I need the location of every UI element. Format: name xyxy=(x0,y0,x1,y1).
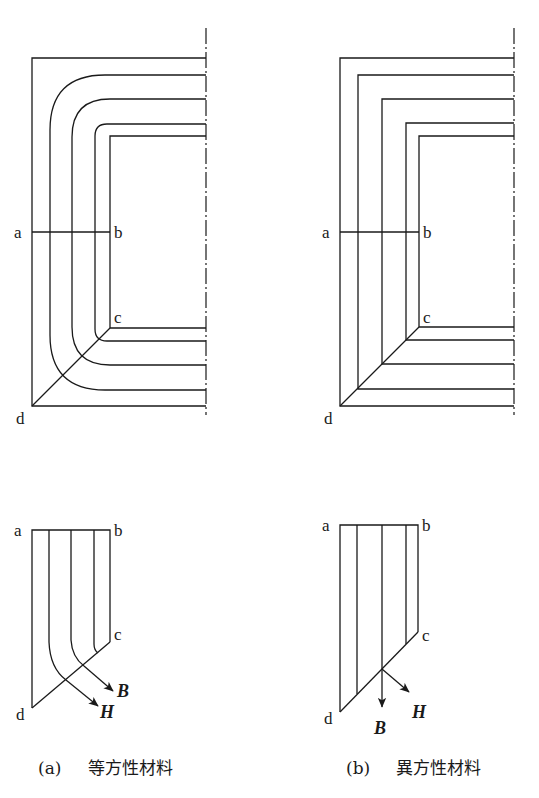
caption-b-text: 異方性材料 xyxy=(396,758,481,778)
vector-label-h: H xyxy=(99,702,115,722)
caption-b: (b) 異方性材料 xyxy=(346,758,481,778)
caption-a-label: (a) xyxy=(38,758,61,778)
point-label-a: a xyxy=(14,223,22,242)
diagonal-dc xyxy=(340,327,419,406)
flux-line-2 xyxy=(71,530,84,666)
panel-b-core-corner: a b c d xyxy=(322,28,514,428)
point-label-b: b xyxy=(422,516,431,535)
h-vector-arrow xyxy=(382,669,409,692)
caption-a-text: 等方性材料 xyxy=(88,758,173,778)
caption-a: (a) 等方性材料 xyxy=(38,758,173,778)
point-label-c: c xyxy=(114,308,122,327)
point-label-b: b xyxy=(423,223,432,242)
caption-b-label: (b) xyxy=(346,758,370,778)
diagonal-dc xyxy=(32,642,110,708)
point-label-c: c xyxy=(114,625,122,644)
panel-a-section-detail: a b c d B H xyxy=(14,521,129,724)
vector-label-b: B xyxy=(373,718,386,738)
panel-a-core-corner: a b c d xyxy=(14,28,206,428)
diagonal-dc xyxy=(32,328,110,406)
point-label-b: b xyxy=(114,223,123,242)
h-vector-arrow xyxy=(66,680,98,706)
panel-b-section-detail: a b c d H B xyxy=(322,516,431,738)
flux-line-1 xyxy=(49,530,66,680)
vector-label-b: B xyxy=(116,681,129,701)
point-label-c: c xyxy=(423,308,431,327)
vector-label-h: H xyxy=(411,702,427,722)
point-label-d: d xyxy=(324,709,333,728)
point-label-d: d xyxy=(324,409,333,428)
inner-window xyxy=(110,136,206,328)
point-label-c: c xyxy=(422,626,430,645)
point-label-a: a xyxy=(14,521,22,540)
flux-line-3 xyxy=(95,124,206,341)
inner-window xyxy=(419,136,514,327)
b-vector-arrow xyxy=(84,666,113,691)
point-label-a: a xyxy=(322,516,330,535)
magnetic-core-diagram: a b c d a b c d a b c d B H xyxy=(0,0,539,798)
point-label-a: a xyxy=(322,223,330,242)
point-label-b: b xyxy=(114,521,123,540)
flux-line-3 xyxy=(94,530,98,653)
point-label-d: d xyxy=(16,409,25,428)
point-label-d: d xyxy=(16,705,25,724)
